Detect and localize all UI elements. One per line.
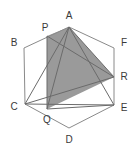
label-R: R <box>120 71 127 82</box>
label-P: P <box>42 22 49 33</box>
label-F: F <box>121 37 127 48</box>
label-Q: Q <box>43 114 51 125</box>
label-B: B <box>11 37 18 48</box>
figure-canvas: A B C D E F P Q R <box>0 0 137 155</box>
label-A: A <box>66 10 73 21</box>
geometry-figure: A B C D E F P Q R <box>0 0 137 155</box>
label-D: D <box>65 134 72 145</box>
label-C: C <box>10 101 17 112</box>
label-E: E <box>121 102 128 113</box>
